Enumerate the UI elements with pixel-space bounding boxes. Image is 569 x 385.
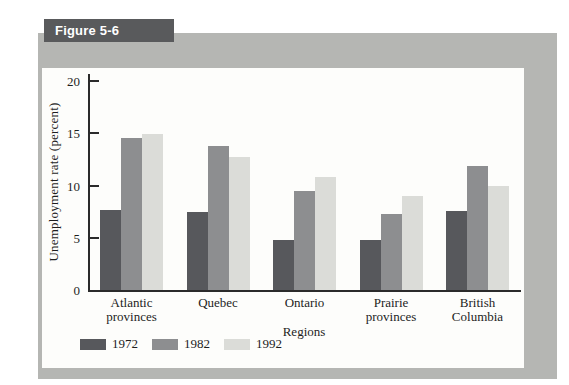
bar-1972-quebec xyxy=(187,212,208,290)
y-tick-label: 5 xyxy=(50,231,80,244)
y-tick-mark xyxy=(90,132,99,134)
legend-label-1992: 1992 xyxy=(256,336,282,352)
x-category-label-atlantic-provinces: Atlantic provinces xyxy=(90,296,174,324)
bar-1972-atlantic-provinces xyxy=(100,210,121,290)
plot-area: Unemployment rate (percent) 05101520Atla… xyxy=(42,68,524,368)
bar-1972-prairie-provinces xyxy=(360,240,381,290)
legend-item-1992: 1992 xyxy=(224,336,282,352)
bar-1992-ontario xyxy=(315,177,336,290)
bar-1982-atlantic-provinces xyxy=(121,138,142,290)
y-tick-mark xyxy=(90,80,99,82)
y-tick-label: 0 xyxy=(50,284,80,297)
bar-1992-atlantic-provinces xyxy=(142,134,163,290)
legend-swatch-1982 xyxy=(152,339,178,350)
y-axis-line xyxy=(88,74,90,292)
legend-swatch-1992 xyxy=(224,339,250,350)
figure-label: Figure 5-6 xyxy=(44,19,174,42)
bar-1972-ontario xyxy=(273,240,294,290)
x-axis-line xyxy=(88,290,521,292)
bar-1992-prairie-provinces xyxy=(402,196,423,290)
y-tick-label: 20 xyxy=(50,75,80,88)
figure-box: Unemployment rate (percent) 05101520Atla… xyxy=(42,68,524,368)
y-tick-label: 15 xyxy=(50,127,80,140)
legend-label-1972: 1972 xyxy=(112,336,138,352)
bar-1992-quebec xyxy=(229,157,250,290)
bar-1992-british-columbia xyxy=(488,186,509,291)
y-tick-mark xyxy=(90,185,99,187)
x-category-label-ontario: Ontario xyxy=(263,296,347,310)
page-background: Figure 5-6 Unemployment rate (percent) 0… xyxy=(0,0,569,385)
legend-item-1982: 1982 xyxy=(152,336,210,352)
bar-1972-british-columbia xyxy=(446,211,467,290)
x-category-label-prairie-provinces: Prairie provinces xyxy=(349,296,433,324)
bar-1982-british-columbia xyxy=(467,166,488,290)
x-category-label-quebec: Quebec xyxy=(176,296,260,310)
y-tick-mark xyxy=(90,237,99,239)
legend-label-1982: 1982 xyxy=(184,336,210,352)
bar-1982-prairie-provinces xyxy=(381,214,402,290)
x-category-label-british-columbia: British Columbia xyxy=(436,296,520,324)
bar-1982-ontario xyxy=(294,191,315,290)
legend: 197219821992 xyxy=(80,336,296,352)
legend-item-1972: 1972 xyxy=(80,336,138,352)
legend-swatch-1972 xyxy=(80,339,106,350)
y-tick-label: 10 xyxy=(50,179,80,192)
bar-1982-quebec xyxy=(208,146,229,290)
